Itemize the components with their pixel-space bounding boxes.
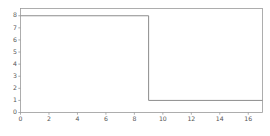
axes-spines: [21, 9, 263, 113]
y-tick-label: 0: [13, 108, 17, 115]
y-tick-label: 6: [13, 36, 17, 43]
x-tick-label: 8: [132, 115, 136, 122]
x-tick-label: 10: [159, 115, 167, 122]
y-tick-label: 7: [13, 24, 17, 31]
chart-figure: 0246810121416 012345678: [0, 0, 270, 136]
y-tick-label: 2: [13, 84, 17, 91]
data-series-group: [21, 16, 263, 101]
x-tick-label: 2: [47, 115, 51, 122]
x-tick-label: 0: [19, 115, 23, 122]
x-tick-label: 4: [75, 115, 79, 122]
y-axis-tick-labels: 012345678: [13, 11, 17, 115]
y-tick-label: 3: [13, 72, 17, 79]
y-tick-label: 4: [13, 60, 17, 67]
x-axis-tick-labels: 0246810121416: [19, 115, 253, 122]
y-tick-label: 5: [13, 48, 17, 55]
y-tick-label: 1: [13, 96, 17, 103]
x-tick-label: 14: [216, 115, 224, 122]
plot-frame: [21, 9, 263, 113]
step-chart-plot: 0246810121416 012345678: [0, 0, 270, 136]
x-tick-label: 6: [104, 115, 108, 122]
data-line-step: [21, 16, 263, 101]
x-tick-label: 12: [187, 115, 195, 122]
x-tick-label: 16: [244, 115, 252, 122]
y-tick-label: 8: [13, 11, 17, 18]
